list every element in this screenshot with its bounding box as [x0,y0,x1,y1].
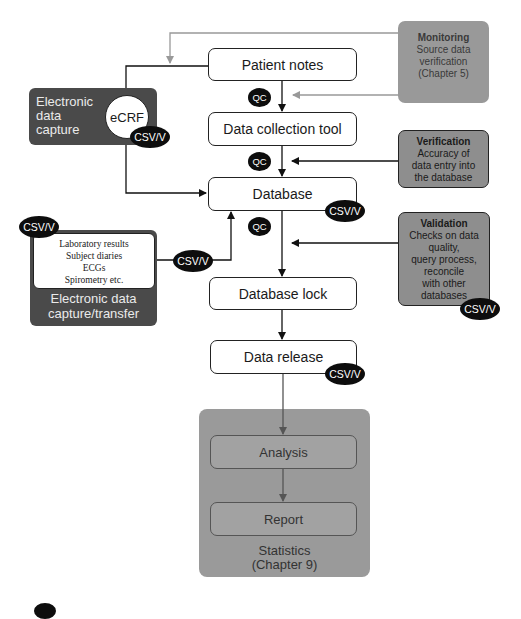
transfer-item: ECGs [34,262,154,274]
monitoring-line: verification [398,56,489,68]
validation-box: Validation Checks on data quality, query… [398,212,490,306]
transfer-label-line1: Electronic data [30,291,157,306]
csv-badge-transfer-link: CSV/V [173,250,213,272]
legend-badge-partial [34,603,56,619]
qc-badge-3: QC [248,217,271,236]
validation-line: quality, [399,242,489,254]
monitoring-title: Monitoring [398,32,489,44]
transfer-item: Laboratory results [34,238,154,250]
analysis-box: Analysis [210,435,357,469]
qc-badge-1: QC [248,88,271,107]
verification-line: the database [399,172,488,184]
edc-label-line2: data [36,109,93,123]
database-lock-box: Database lock [209,277,357,310]
data-collection-tool-box: Data collection tool [208,112,357,146]
statistics-label-line1: Statistics [199,544,370,558]
validation-title: Validation [399,218,489,230]
report-box: Report [210,502,357,536]
csv-badge-database: CSV/V [325,200,365,222]
csv-badge-ecrf: CSV/V [130,126,170,148]
statistics-label: Statistics (Chapter 9) [199,544,370,572]
transfer-items-box: Laboratory results Subject diaries ECGs … [33,233,155,289]
monitoring-line: Source data [398,44,489,56]
edc-label-line1: Electronic [36,95,93,109]
csv-badge-validation: CSV/V [460,298,500,320]
transfer-label-line2: capture/transfer [30,306,157,321]
csv-badge-transfer-top: CSV/V [19,216,59,238]
verification-line: data entry into [399,160,488,172]
validation-line: query process, [399,254,489,266]
transfer-item: Spirometry etc. [34,274,154,286]
verification-box: Verification Accuracy of data entry into… [398,130,489,188]
transfer-item: Subject diaries [34,250,154,262]
edc-label-line3: capture [36,123,93,137]
csv-badge-data-release: CSV/V [325,363,365,385]
ecrf-label: eCRF [110,110,144,125]
electronic-data-transfer-label-area: Electronic data capture/transfer [30,288,157,326]
validation-line: Checks on data [399,230,489,242]
validation-line: with other [399,278,489,290]
statistics-label-line2: (Chapter 9) [199,558,370,572]
verification-line: Accuracy of [399,148,488,160]
validation-line: reconcile [399,266,489,278]
qc-badge-2: QC [248,152,271,171]
monitoring-box: Monitoring Source data verification (Cha… [398,21,489,103]
verification-title: Verification [399,136,488,148]
patient-notes-box: Patient notes [208,48,357,81]
monitoring-line: (Chapter 5) [398,68,489,80]
